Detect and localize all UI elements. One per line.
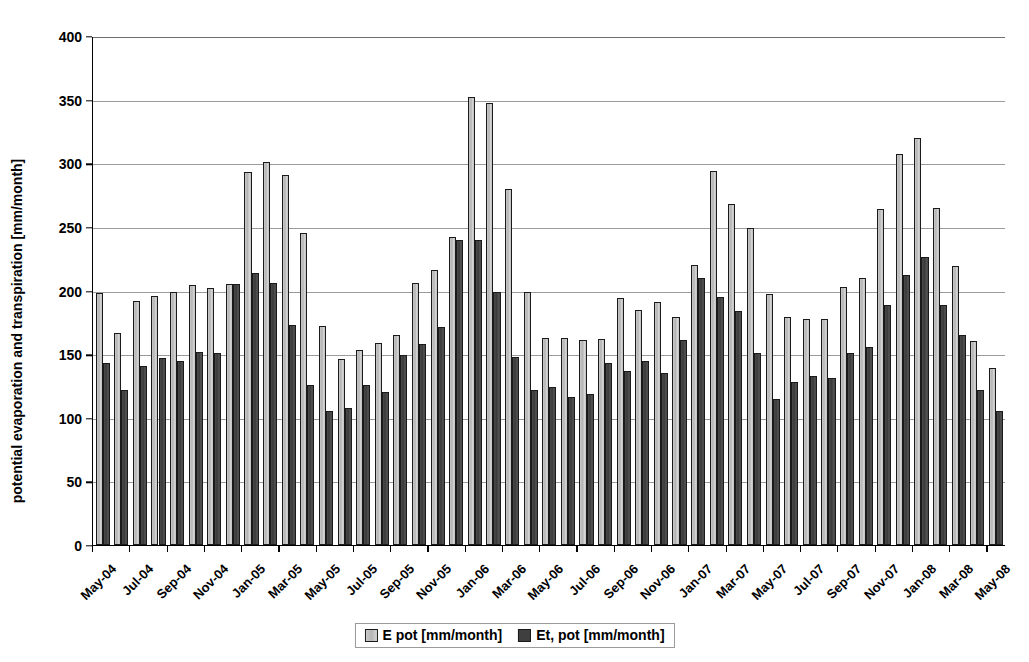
bar-group [502, 37, 521, 545]
bar-et-pot [549, 387, 556, 545]
x-tick-mark [390, 546, 391, 552]
bar-group [968, 37, 987, 545]
bar-et-pot [345, 408, 352, 545]
bar-et-pot [140, 366, 147, 545]
x-tick-label: May-07 [680, 561, 790, 662]
x-tick-mark [502, 546, 503, 552]
x-tick-label: Jul-04 [47, 561, 157, 662]
bar-et-pot [847, 353, 854, 545]
x-tick-label: Jul-07 [718, 561, 828, 662]
y-tick-label: 350 [34, 94, 82, 108]
bar-et-pot [531, 390, 538, 545]
x-tick-mark [651, 546, 652, 552]
x-tick-mark [204, 546, 205, 552]
bar-group [167, 37, 186, 545]
x-tick-mark [167, 546, 168, 552]
bar-et-pot [903, 275, 910, 545]
x-tick-mark [427, 546, 428, 552]
x-tick-label: Jan-05 [159, 561, 269, 662]
bar-et-pot [661, 373, 668, 545]
bar-e-pot [635, 310, 642, 545]
x-tick-mark [129, 546, 130, 552]
bar-et-pot [940, 305, 947, 546]
y-tick-label: 50 [34, 475, 82, 489]
bar-e-pot [654, 302, 661, 545]
bar-group [316, 37, 335, 545]
bar-group [875, 37, 894, 545]
bar-group [242, 37, 261, 545]
bar-group [912, 37, 931, 545]
bar-e-pot [524, 292, 531, 545]
x-tick-mark [763, 546, 764, 552]
bar-et-pot [735, 311, 742, 545]
x-tick-label: Mar-05 [196, 561, 306, 662]
bar-group [837, 37, 856, 545]
bar-et-pot [121, 390, 128, 545]
bar-e-pot [431, 270, 438, 545]
legend-label-et-pot: Et, pot [mm/month] [536, 627, 664, 643]
bar-group [391, 37, 410, 545]
bar-et-pot [828, 378, 835, 545]
bar-e-pot [282, 175, 289, 545]
bar-e-pot [96, 293, 103, 545]
bar-group [428, 37, 447, 545]
plot-area [92, 37, 1005, 546]
bar-e-pot [747, 228, 754, 545]
bar-e-pot [393, 335, 400, 545]
bar-group [521, 37, 540, 545]
bar-e-pot [412, 283, 419, 545]
legend-swatch-e-pot [364, 629, 377, 642]
bar-group [819, 37, 838, 545]
y-tick-label: 200 [34, 285, 82, 299]
bar-group [614, 37, 633, 545]
bar-e-pot [598, 339, 605, 545]
bar-group [205, 37, 224, 545]
legend-item-e-pot: E pot [mm/month] [364, 627, 502, 643]
bar-et-pot [289, 325, 296, 545]
bar-group [112, 37, 131, 545]
bar-et-pot [103, 363, 110, 545]
y-tick-label: 250 [34, 221, 82, 235]
bar-et-pot [419, 344, 426, 545]
bar-group [540, 37, 559, 545]
bar-e-pot [561, 338, 568, 545]
bar-e-pot [300, 233, 307, 545]
y-tick-label: 150 [34, 348, 82, 362]
bar-et-pot [512, 357, 519, 545]
bar-group [595, 37, 614, 545]
bar-e-pot [244, 172, 251, 545]
bar-et-pot [717, 297, 724, 545]
bar-group [707, 37, 726, 545]
bar-e-pot [952, 266, 959, 545]
bar-e-pot [840, 287, 847, 545]
bar-group [186, 37, 205, 545]
x-tick-label: Sep-04 [84, 561, 194, 662]
bar-group [800, 37, 819, 545]
bar-e-pot [579, 340, 586, 545]
bar-group [298, 37, 317, 545]
bar-e-pot [970, 341, 977, 545]
bar-group [763, 37, 782, 545]
bar-e-pot [914, 138, 921, 545]
y-tick-label: 300 [34, 157, 82, 171]
bar-e-pot [877, 209, 884, 545]
bar-e-pot [803, 319, 810, 546]
bar-et-pot [307, 385, 314, 545]
bar-group [223, 37, 242, 545]
bar-e-pot [356, 350, 363, 545]
bar-e-pot [859, 278, 866, 545]
x-tick-mark [465, 546, 466, 552]
bar-et-pot [698, 278, 705, 545]
bar-group [930, 37, 949, 545]
bar-e-pot [542, 338, 549, 545]
bar-group [577, 37, 596, 545]
bar-group [893, 37, 912, 545]
bar-group [279, 37, 298, 545]
bar-et-pot [159, 358, 166, 545]
bar-group [726, 37, 745, 545]
bar-et-pot [773, 399, 780, 545]
legend-label-e-pot: E pot [mm/month] [382, 627, 502, 643]
x-tick-mark [353, 546, 354, 552]
bar-et-pot [996, 411, 1003, 545]
bar-e-pot [151, 296, 158, 545]
